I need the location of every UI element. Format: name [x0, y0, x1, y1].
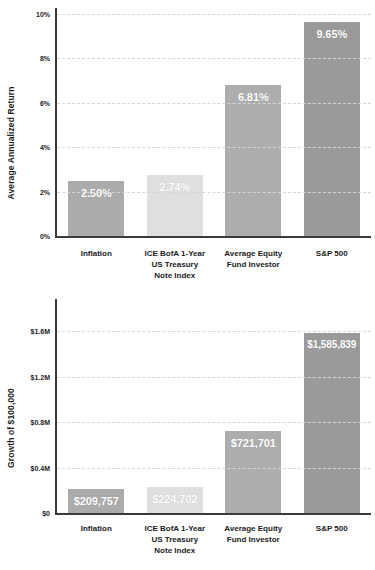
gridline — [57, 192, 371, 193]
gridline — [57, 147, 371, 148]
plot-area-bottom: $209,757$224,702$721,701$1,585,839 — [55, 285, 371, 517]
y-tick-label: 10% — [36, 11, 50, 18]
category-label-line: Fund Investor — [217, 259, 289, 270]
chart-page: Average Annualized Return 0%2%4%6%8%10% … — [0, 0, 375, 570]
y-axis-title-return: Average Annualized Return — [0, 0, 22, 285]
category-label-line: Fund Investor — [217, 534, 289, 545]
y-tick-label: $1.2M — [31, 373, 50, 380]
annualized-return-chart: Average Annualized Return 0%2%4%6%8%10% … — [0, 0, 375, 285]
bar[interactable]: $224,702 — [147, 487, 203, 513]
bar-value-label: $1,585,839 — [307, 339, 356, 350]
gridline — [57, 331, 371, 332]
y-tick-labels-bottom: $0$0.4M$0.8M$1.2M$1.6M — [24, 285, 52, 570]
x-axis-line-bottom — [55, 513, 371, 515]
category-label-line: ICE BofA 1-Year — [139, 248, 211, 259]
category-label-line: US Treasury — [139, 534, 211, 545]
y-tick-label: 8% — [40, 55, 50, 62]
category-label-line: Note Index — [139, 545, 211, 556]
category-label-line: US Treasury — [139, 259, 211, 270]
gridline — [57, 103, 371, 104]
bar-value-label: $224,702 — [152, 493, 197, 505]
bar[interactable]: 2.74% — [147, 175, 203, 236]
category-label-line: Average Equity — [217, 248, 289, 259]
bar[interactable]: $209,757 — [68, 489, 124, 513]
gridline — [57, 468, 371, 469]
y-tick-label: $1.6M — [31, 328, 50, 335]
category-label: Inflation — [60, 248, 132, 281]
category-label: ICE BofA 1-YearUS TreasuryNote Index — [139, 523, 211, 556]
category-labels-bottom: InflationICE BofA 1-YearUS TreasuryNote … — [57, 523, 371, 556]
y-tick-label: 6% — [40, 99, 50, 106]
bar-value-label: 6.81% — [238, 91, 269, 103]
y-tick-labels-top: 0%2%4%6%8%10% — [24, 0, 52, 285]
y-tick-label: $0 — [42, 510, 50, 517]
plot-area-top: 2.50%2.74%6.81%9.65% — [55, 0, 371, 240]
category-label: Average EquityFund Investor — [217, 248, 289, 281]
gridline — [57, 422, 371, 423]
bars-layer-top: 2.50%2.74%6.81%9.65% — [57, 0, 371, 236]
bar-value-label: $209,757 — [74, 495, 119, 507]
bar-value-label: $721,701 — [231, 437, 276, 449]
category-labels-top: InflationICE BofA 1-YearUS TreasuryNote … — [57, 248, 371, 281]
category-label-line: ICE BofA 1-Year — [139, 523, 211, 534]
gridline — [57, 58, 371, 59]
bar[interactable]: 2.50% — [68, 181, 124, 237]
category-label: S&P 500 — [296, 523, 368, 556]
x-axis-line-top — [55, 236, 371, 238]
category-label-line: Inflation — [60, 523, 132, 534]
bars-layer-bottom: $209,757$224,702$721,701$1,585,839 — [57, 285, 371, 513]
category-label-line: Note Index — [139, 270, 211, 281]
gridline — [57, 14, 371, 15]
category-label-line: S&P 500 — [296, 248, 368, 259]
y-tick-label: $0.4M — [31, 464, 50, 471]
bar[interactable]: 9.65% — [304, 22, 360, 236]
bar[interactable]: $721,701 — [225, 431, 281, 513]
category-label: S&P 500 — [296, 248, 368, 281]
y-tick-label: 0% — [40, 233, 50, 240]
growth-of-100000-chart: Growth of $100,000 $0$0.4M$0.8M$1.2M$1.6… — [0, 285, 375, 570]
category-label-line: Average Equity — [217, 523, 289, 534]
category-label: Inflation — [60, 523, 132, 556]
y-tick-label: 4% — [40, 144, 50, 151]
category-label-line: Inflation — [60, 248, 132, 259]
y-tick-label: 2% — [40, 188, 50, 195]
category-label: Average EquityFund Investor — [217, 523, 289, 556]
category-label-line: S&P 500 — [296, 523, 368, 534]
gridline — [57, 377, 371, 378]
category-label: ICE BofA 1-YearUS TreasuryNote Index — [139, 248, 211, 281]
y-axis-title-growth: Growth of $100,000 — [0, 285, 22, 570]
bar-value-label: 9.65% — [316, 28, 347, 40]
y-axis-title-growth-label: Growth of $100,000 — [6, 388, 16, 468]
plot-wrap-top: 0%2%4%6%8%10% 2.50%2.74%6.81%9.65% Infla… — [24, 0, 373, 285]
plot-wrap-bottom: $0$0.4M$0.8M$1.2M$1.6M $209,757$224,702$… — [24, 285, 373, 570]
y-axis-title-return-label: Average Annualized Return — [6, 86, 16, 199]
bar[interactable]: 6.81% — [225, 85, 281, 236]
y-tick-label: $0.8M — [31, 419, 50, 426]
